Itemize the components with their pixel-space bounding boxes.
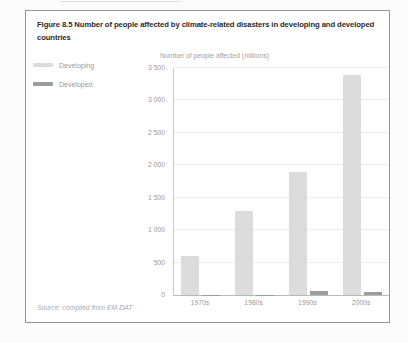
figure-title: Figure 8.5 Number of people affected by … bbox=[37, 18, 389, 44]
y-tick-2000: 2 000 bbox=[148, 161, 165, 169]
y-tick-3500: 3 500 bbox=[148, 64, 165, 72]
x-tick-1990s: 1990s bbox=[281, 299, 335, 306]
bar-developing-1990s bbox=[289, 172, 307, 295]
bar-developing-1970s bbox=[181, 256, 199, 295]
plot-area bbox=[173, 68, 389, 296]
y-tick-0: 0 bbox=[161, 291, 165, 299]
bar-developing-1980s bbox=[235, 211, 253, 295]
y-axis: 05001 0001 5002 0002 5003 0003 500 bbox=[26, 68, 169, 295]
bar-developing-2000s bbox=[343, 75, 361, 296]
x-tick-2000s: 2000s bbox=[334, 299, 388, 306]
y-tick-500: 500 bbox=[154, 259, 165, 267]
page: Figure 8.5 Number of people affected by … bbox=[0, 0, 408, 343]
figure-box: Figure 8.5 Number of people affected by … bbox=[25, 10, 390, 323]
bar-group-1980s bbox=[228, 68, 282, 295]
bar-group-1970s bbox=[174, 68, 228, 295]
x-axis: 1970s1980s1990s2000s bbox=[173, 299, 388, 311]
bar-group-2000s bbox=[335, 68, 389, 295]
y-tick-3000: 3 000 bbox=[148, 96, 165, 104]
x-tick-1970s: 1970s bbox=[173, 299, 227, 306]
bar-group-1990s bbox=[282, 68, 336, 295]
y-tick-2500: 2 500 bbox=[148, 129, 165, 137]
y-tick-1500: 1 500 bbox=[148, 194, 165, 202]
legend-swatch-developing bbox=[33, 63, 53, 67]
source-note: Source: compiled from EM-DAT bbox=[37, 304, 132, 311]
y-tick-1000: 1 000 bbox=[148, 226, 165, 234]
bar-developed-2000s bbox=[364, 292, 382, 295]
scan-artifact-line bbox=[60, 1, 182, 2]
x-tick-1980s: 1980s bbox=[227, 299, 281, 306]
y-axis-title: Number of people affected (millions) bbox=[160, 52, 269, 59]
bar-developed-1990s bbox=[310, 291, 328, 295]
